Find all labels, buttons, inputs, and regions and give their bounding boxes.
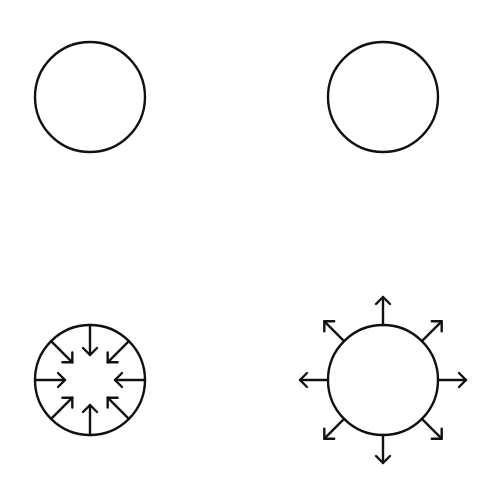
circle-outline xyxy=(35,42,145,152)
outward-arrow-icon xyxy=(422,321,442,341)
outward-arrow-icon xyxy=(422,419,442,439)
outward-arrow-icon xyxy=(438,373,466,387)
plain-circle-top-left xyxy=(35,42,145,152)
circle-with-inward-arrows xyxy=(35,325,145,435)
inward-arrow-icon xyxy=(83,405,97,435)
inward-arrow-icon xyxy=(108,341,129,362)
plain-circle-top-right xyxy=(328,42,438,152)
outward-arrow-icon xyxy=(324,419,344,439)
outward-arrow-icon xyxy=(376,435,390,463)
diagram-canvas xyxy=(0,0,489,491)
inward-arrow-icon xyxy=(115,373,145,387)
inward-arrow-icon xyxy=(51,398,72,419)
outward-arrow-icon xyxy=(376,297,390,325)
inward-arrow-icon xyxy=(51,341,72,362)
outward-arrow-icon xyxy=(300,373,328,387)
circle-outline xyxy=(328,42,438,152)
inward-arrow-icon xyxy=(35,373,65,387)
circle-with-outward-arrows xyxy=(300,297,466,463)
inward-arrow-icon xyxy=(108,398,129,419)
outward-arrow-icon xyxy=(324,321,344,341)
inward-arrow-icon xyxy=(83,325,97,355)
